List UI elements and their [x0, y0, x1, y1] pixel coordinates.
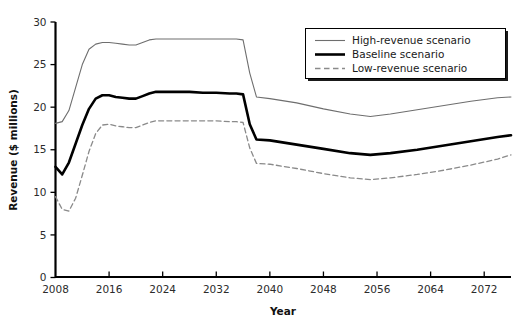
y-tick-label: 25	[33, 58, 46, 70]
x-tick-label: 2032	[203, 283, 230, 295]
legend-label-low: Low-revenue scenario	[352, 62, 467, 74]
x-tick-label: 2072	[471, 283, 498, 295]
chart-canvas: 051015202530 200820162024203220402048205…	[0, 0, 523, 328]
y-tick-label: 15	[33, 143, 46, 155]
x-tick-label: 2008	[42, 283, 69, 295]
x-tick-label: 2024	[149, 283, 176, 295]
x-axis-title: Year	[269, 305, 297, 317]
y-axis-title: Revenue ($ millions)	[7, 89, 19, 211]
legend: High-revenue scenario Baseline scenario …	[306, 29, 509, 82]
legend-label-high: High-revenue scenario	[352, 34, 471, 46]
x-tick-label: 2040	[256, 283, 283, 295]
y-tick-label: 20	[33, 101, 46, 113]
y-tick-label: 10	[33, 186, 46, 198]
x-tick-label: 2056	[364, 283, 391, 295]
x-tick-label: 2048	[310, 283, 337, 295]
y-tick-label: 30	[33, 16, 46, 28]
x-tick-label: 2016	[96, 283, 123, 295]
legend-label-baseline: Baseline scenario	[352, 48, 444, 60]
revenue-scenarios-chart: 051015202530 200820162024203220402048205…	[0, 0, 523, 328]
y-tick-label: 5	[40, 229, 47, 241]
x-tick-label: 2064	[417, 283, 444, 295]
y-tick-label: 0	[40, 271, 47, 283]
